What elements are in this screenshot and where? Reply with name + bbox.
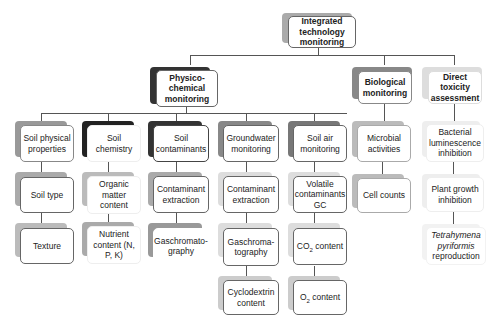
connector — [246, 162, 247, 172]
connector — [453, 212, 454, 224]
root-node: Integrated technology monitoring — [288, 16, 356, 48]
organic-matter-node: Organic matter content — [87, 176, 141, 214]
connector — [246, 266, 247, 276]
soil-physical-label: Soil physical properties — [23, 133, 71, 154]
direct-toxicity-node: Direct toxicity assessment — [428, 71, 482, 104]
connector — [41, 162, 42, 172]
co2-content-label: CO2 content — [297, 241, 343, 252]
biological-monitoring-label: Biological monitoring — [361, 77, 409, 98]
root-label: Integrated technology monitoring — [291, 16, 353, 48]
connector — [314, 213, 315, 223]
soil-physical-properties-node: Soil physical properties — [20, 125, 74, 162]
organic-matter-label: Organic matter content — [90, 179, 138, 211]
volatile-contaminants-label: Volatile contaminants GC — [295, 179, 346, 211]
gw-contaminant-extraction-node: Contaminant extraction — [223, 176, 279, 213]
connector — [176, 162, 177, 172]
microbial-activities-label: Microbial activities — [360, 133, 408, 154]
bacterial-luminescence-node: Bacterial luminescence inhibition — [426, 124, 484, 162]
groundwater-label: Groundwater monitoring — [226, 133, 276, 154]
connector — [314, 113, 315, 121]
connector — [246, 113, 247, 121]
soil-contaminant-extraction-label: Contaminant extraction — [156, 184, 206, 205]
nutrient-content-label: Nutrient content (N, P, K) — [90, 229, 138, 261]
physico-chemical-node: Physico-chemical monitoring — [156, 70, 218, 107]
gw-gaschromatography-node: Gaschroma-tography — [223, 228, 279, 266]
plant-growth-node: Plant growth inhibition — [426, 177, 484, 212]
connector — [108, 162, 109, 172]
soil-air-monitoring-node: Soil air monitoring — [293, 125, 347, 162]
connector — [382, 162, 383, 174]
connector — [314, 162, 315, 172]
connector — [454, 55, 455, 65]
connector — [384, 103, 385, 121]
connector — [384, 55, 385, 65]
co2-content-node: CO2 content — [293, 228, 347, 265]
microbial-activities-node: Microbial activities — [357, 125, 411, 162]
soil-gaschromatography-label: Gaschromato-graphy — [154, 236, 208, 257]
tetrahymena-reproduction-label: reproduction — [432, 251, 479, 262]
connector — [453, 162, 454, 174]
soil-contaminant-extraction-node: Contaminant extraction — [153, 176, 209, 213]
connector — [318, 47, 319, 55]
connector — [176, 213, 177, 223]
plant-growth-label: Plant growth inhibition — [429, 184, 481, 205]
connector — [176, 113, 177, 121]
connector — [314, 266, 315, 276]
soil-air-label: Soil air monitoring — [296, 133, 344, 154]
connector — [190, 55, 454, 56]
direct-toxicity-label: Direct toxicity assessment — [431, 72, 480, 104]
connector — [41, 113, 42, 121]
soil-contaminants-node: Soil contaminants — [153, 125, 209, 162]
cell-counts-label: Cell counts — [363, 190, 405, 201]
soil-gaschromatography-node: Gaschromato-graphy — [153, 228, 209, 264]
texture-label: Texture — [33, 241, 61, 252]
texture-node: Texture — [20, 228, 74, 264]
soil-type-node: Soil type — [20, 177, 74, 213]
soil-chemistry-node: Soil chemistry — [87, 125, 141, 162]
groundwater-monitoring-node: Groundwater monitoring — [223, 125, 279, 162]
connector — [190, 55, 191, 65]
connector — [41, 213, 42, 223]
bacterial-luminescence-label: Bacterial luminescence inhibition — [429, 127, 481, 159]
cell-counts-node: Cell counts — [357, 178, 411, 213]
connector — [108, 113, 109, 121]
soil-chemistry-label: Soil chemistry — [90, 133, 138, 154]
soil-contaminants-label: Soil contaminants — [156, 133, 207, 154]
volatile-contaminants-node: Volatile contaminants GC — [293, 176, 347, 213]
tetrahymena-node: Tetrahymena pyriformis reproduction — [426, 227, 486, 265]
physico-chemical-label: Physico-chemical monitoring — [159, 73, 215, 105]
o2-content-node: O2 content — [293, 280, 347, 315]
o2-content-label: O2 content — [300, 292, 340, 303]
connector — [454, 103, 455, 121]
soil-type-label: Soil type — [31, 190, 64, 201]
connector — [246, 213, 247, 223]
connector — [108, 214, 109, 222]
connector — [41, 113, 347, 114]
biological-monitoring-node: Biological monitoring — [358, 71, 412, 104]
tetrahymena-species-label: Tetrahymena pyriformis — [429, 230, 483, 251]
nutrient-content-node: Nutrient content (N, P, K) — [87, 226, 141, 264]
cyclodextrin-node: Cyclodextrin content — [223, 280, 279, 315]
cyclodextrin-label: Cyclodextrin content — [226, 287, 276, 308]
gw-gaschromatography-label: Gaschroma-tography — [226, 237, 276, 258]
gw-contaminant-extraction-label: Contaminant extraction — [226, 184, 276, 205]
